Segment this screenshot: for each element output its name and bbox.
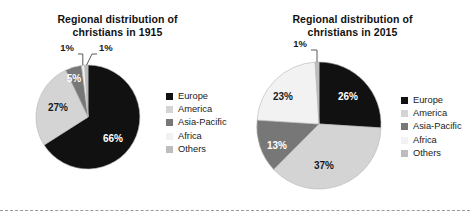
legend-item-europe[interactable]: Europe [166, 90, 227, 103]
pie-callout-others: 1% [293, 38, 307, 49]
legend-item-africa[interactable]: Africa [401, 134, 462, 147]
pie-label-america: 37% [314, 160, 334, 171]
leader-line-others [311, 50, 317, 62]
legend-item-others[interactable]: Others [401, 147, 462, 160]
legend-label-others: Others [413, 147, 441, 160]
figure-root: Regional distribution of christians in 1… [0, 0, 470, 218]
legend-label-asia-pacific: Asia-Pacific [178, 116, 227, 129]
legend-swatch-others-icon [401, 150, 408, 157]
legend-item-africa[interactable]: Africa [166, 130, 227, 143]
chart-panel-2015: Regional distribution of christians in 2… [235, 0, 470, 218]
legend-item-europe[interactable]: Europe [401, 94, 462, 107]
legend-item-america[interactable]: America [401, 107, 462, 120]
legend-label-others: Others [178, 143, 206, 156]
pie-label-africa: 23% [273, 91, 293, 102]
legend-label-africa: Africa [178, 130, 202, 143]
leader-line-others [87, 54, 97, 65]
legend-swatch-europe-icon [166, 93, 173, 100]
legend-label-europe: Europe [178, 90, 208, 103]
pie-label-america: 27% [48, 102, 68, 113]
pie-label-europe: 66% [103, 133, 123, 144]
legend-swatch-africa-icon [401, 137, 408, 144]
pie-chart-2015: 26% 37% 13% 23% 1% [241, 38, 401, 193]
legend-item-asia-pacific[interactable]: Asia-Pacific [401, 120, 462, 133]
legend-1915: Europe America Asia-Pacific Africa Other… [166, 90, 227, 156]
chart-title-2015: Regional distribution of christians in 2… [235, 13, 470, 39]
pie-callout-others: 1% [99, 42, 113, 53]
pie-label-asia-pacific: 13% [267, 140, 287, 151]
bottom-divider [0, 210, 470, 211]
legend-swatch-africa-icon [166, 133, 173, 140]
legend-label-europe: Europe [413, 94, 443, 107]
pie-svg-2015: 26% 37% 13% 23% 1% [241, 38, 401, 193]
legend-swatch-america-icon [401, 110, 408, 117]
leader-line-africa [78, 54, 83, 65]
legend-label-asia-pacific: Asia-Pacific [413, 120, 462, 133]
legend-swatch-others-icon [166, 146, 173, 153]
legend-item-asia-pacific[interactable]: Asia-Pacific [166, 116, 227, 129]
pie-label-asia-pacific: 5% [67, 73, 82, 84]
legend-label-africa: Africa [413, 134, 437, 147]
pie-callout-africa: 1% [60, 42, 74, 53]
legend-swatch-asia-pacific-icon [401, 123, 408, 130]
legend-label-america: America [178, 103, 212, 116]
chart-title-1915: Regional distribution of christians in 1… [0, 13, 235, 39]
legend-item-america[interactable]: America [166, 103, 227, 116]
legend-swatch-asia-pacific-icon [166, 119, 173, 126]
legend-2015: Europe America Asia-Pacific Africa Other… [401, 94, 462, 160]
pie-svg-1915: 66% 27% 5% 1% 1% [16, 38, 166, 183]
chart-panel-1915: Regional distribution of christians in 1… [0, 0, 235, 218]
pie-chart-1915: 66% 27% 5% 1% 1% [16, 38, 166, 183]
legend-label-america: America [413, 107, 447, 120]
legend-swatch-europe-icon [401, 97, 408, 104]
pie-label-europe: 26% [338, 91, 358, 102]
legend-swatch-america-icon [166, 106, 173, 113]
legend-item-others[interactable]: Others [166, 143, 227, 156]
